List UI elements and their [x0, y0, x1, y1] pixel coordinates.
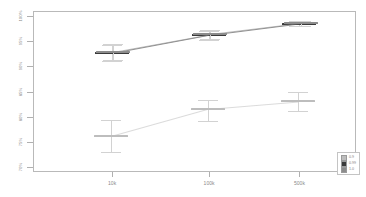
- error-bar-cap: [102, 45, 122, 46]
- y-axis-tick: [27, 41, 33, 42]
- legend-item[interactable]: 0.99: [341, 161, 357, 166]
- legend-item-label: 1.0: [349, 167, 354, 172]
- y-axis-tick-label: 90%: [0, 60, 26, 72]
- x-axis-tick: [299, 172, 300, 177]
- x-axis-tick-label: 500k: [279, 180, 319, 186]
- y-axis-tick-label-text: 100%: [14, 10, 26, 21]
- x-axis-tick: [112, 172, 113, 177]
- series-mean-marker: [281, 100, 315, 102]
- error-bar-cap: [103, 60, 123, 61]
- series-mean-marker: [94, 135, 128, 137]
- y-axis-tick-label: 75%: [0, 136, 26, 148]
- x-axis-tick-label: 10k: [92, 180, 132, 186]
- series-mean-marker: [284, 22, 318, 24]
- error-bar-cap: [200, 30, 220, 31]
- error-bar-cap: [101, 120, 121, 121]
- y-axis-tick: [27, 92, 33, 93]
- y-axis-tick: [27, 117, 33, 118]
- x-axis-tick: [209, 172, 210, 177]
- error-bar-cap: [288, 111, 308, 112]
- legend-item[interactable]: 1.0: [341, 167, 357, 172]
- error-bar-cap: [198, 121, 218, 122]
- series-mean-marker: [96, 51, 130, 53]
- y-axis-tick-label: 70%: [0, 161, 26, 173]
- y-axis-tick-label-text: 75%: [16, 137, 28, 146]
- y-axis-tick-label-text: 90%: [16, 62, 28, 71]
- error-bar-cap: [102, 61, 122, 62]
- legend-item-label: 0.99: [349, 161, 356, 166]
- series-mean-marker: [193, 33, 227, 35]
- chart-legend: 0.90.991.0: [337, 152, 361, 175]
- x-axis-tick-label: 100k: [189, 180, 229, 186]
- y-axis-tick: [27, 142, 33, 143]
- legend-item-label: 0.9: [349, 155, 354, 160]
- series-mean-marker: [191, 108, 225, 110]
- y-axis-tick: [27, 66, 33, 67]
- y-axis-tick-label-text: 85%: [16, 87, 28, 96]
- y-axis-tick-label-text: 95%: [16, 37, 28, 46]
- y-axis-tick-label: 85%: [0, 86, 26, 98]
- y-axis-tick-label-text: 70%: [16, 163, 28, 172]
- error-bar-cap: [288, 92, 308, 93]
- error-bar-cap: [101, 152, 121, 153]
- chart-figure: 100%95%90%85%80%75%70% 10k100k500k 0.90.…: [0, 0, 366, 197]
- error-bar-cap: [198, 100, 218, 101]
- error-bar-whisker: [208, 100, 209, 121]
- legend-swatch-icon: [341, 167, 347, 173]
- error-bar-cap: [103, 44, 123, 45]
- y-axis-tick-label: 100%: [0, 10, 26, 22]
- y-axis-tick-label: 95%: [0, 35, 26, 47]
- error-bar-cap: [200, 39, 220, 40]
- y-axis-tick-label: 80%: [0, 111, 26, 123]
- legend-item[interactable]: 0.9: [341, 155, 357, 160]
- error-bar-cap: [291, 26, 311, 27]
- y-axis-tick: [27, 16, 33, 17]
- error-bar-cap: [199, 40, 219, 41]
- y-axis-tick-label-text: 80%: [16, 112, 28, 121]
- error-bar-cap: [199, 31, 219, 32]
- y-axis-tick: [27, 167, 33, 168]
